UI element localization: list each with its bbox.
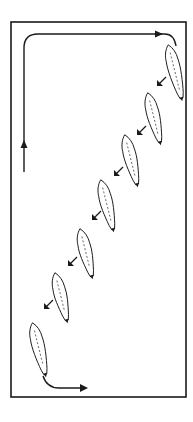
horse-icon [49, 271, 74, 324]
horse-icon [142, 91, 167, 146]
arrow-down-left-icon [92, 211, 101, 220]
arrow-up-icon [21, 140, 28, 148]
exit-line [43, 376, 81, 388]
horse-icon [119, 133, 144, 188]
arrow-down-left-icon [44, 300, 53, 309]
exit-arrow [43, 376, 88, 392]
arrow-down-left-icon [137, 126, 146, 135]
horse-group [26, 43, 188, 378]
horse-icon [95, 178, 120, 233]
arrow-down-left-icon [157, 77, 166, 86]
horse-icon [74, 227, 99, 280]
horse-icon [26, 321, 52, 378]
horse-icon [162, 43, 188, 102]
arrow-right-icon [155, 31, 163, 38]
arrow-down-left-icon [114, 167, 123, 176]
horse-body [162, 43, 187, 99]
arena-svg [0, 0, 193, 422]
arrow-down-left-icon [68, 257, 77, 266]
horse-body [26, 321, 51, 375]
arena-diagram [0, 0, 193, 422]
arrow-right-icon [80, 384, 88, 392]
